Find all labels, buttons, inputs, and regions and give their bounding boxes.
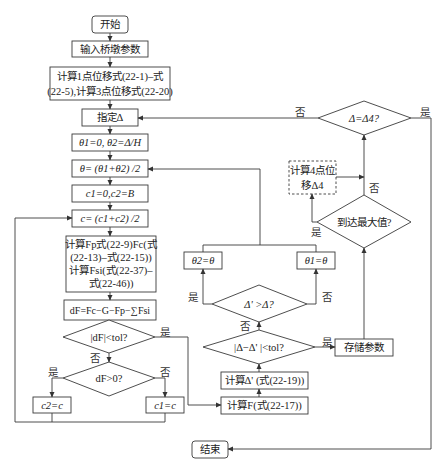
edge-label-delta-gt-no: 否	[322, 289, 332, 304]
start-label: 开始	[92, 16, 128, 33]
calc-delta-prime-label: 计算Δ' (式(22-19))	[221, 372, 308, 389]
calc-F-label: 计算F(式(22-17))	[221, 397, 308, 414]
edge-label-delta4-yes: 是	[420, 104, 430, 119]
edge-label-dF-pos-yes: 是	[48, 364, 58, 379]
theta2-eq-label: θ2=θ	[184, 252, 222, 269]
calc-disp-label-1: 计算1点位移式(22-1)–式	[50, 69, 170, 83]
calc-forces-label-3: 计算Fsi(式(22-37)–	[66, 264, 156, 277]
edge-label-delta4-no: 否	[295, 104, 305, 119]
calc-forces-label-4: 式(22-46))	[66, 277, 156, 290]
calc-forces-label-1: 计算Fp式(22-9)Fc(式	[66, 238, 156, 251]
calc-disp-label-2: (22-5),计算3点位移式(22-20)	[50, 84, 170, 98]
c1-eq-c-label: c1=c	[146, 397, 184, 413]
dF-label: dF=Fc−G−Fp−∑Fsi	[64, 300, 156, 320]
edge-label-reach-max-no: 否	[369, 180, 379, 195]
c2-eq-c-label: c2=c	[33, 397, 71, 413]
assign-delta-label: 指定Δ	[82, 109, 138, 126]
edge-label-delta-tol-no: 否	[240, 318, 250, 333]
edge-label-dF-tol-no: 否	[90, 350, 100, 365]
calc-forces-label-2: (22-13)–式(22-15))	[66, 251, 156, 264]
c-mid-label: c= (c1+c2) /2	[72, 210, 148, 227]
input-params-label: 输入桥墩参数	[72, 41, 148, 57]
edge-label-reach-max-yes: 是	[311, 224, 321, 239]
theta1-eq-label: θ1=θ	[297, 252, 335, 269]
init-theta-label: θ1=0, θ2=Δ/H	[72, 134, 148, 151]
edge-label-delta-tol-yes: 是	[322, 334, 332, 349]
edge-label-dF-pos-no: 否	[160, 364, 170, 379]
edge-label-delta-gt-yes: 是	[188, 289, 198, 304]
calc-disp-4-label-2: 移Δ4	[289, 178, 336, 192]
theta-mid-label: θ= (θ1+θ2) /2	[72, 160, 148, 177]
calc-disp-4-label-1: 计算4点位	[289, 163, 336, 177]
check-dF-pos-label: dF>0?	[73, 371, 145, 385]
edge-label-dF-tol-yes: 是	[160, 324, 170, 339]
init-c-label: c1=0,c2=B	[72, 185, 148, 202]
reach-max-label: 到达最大值?	[327, 215, 401, 229]
check-delta-tol-label: |Δ−Δ' |<tol?	[219, 340, 299, 354]
check-delta4-label: Δ=Δ4?	[334, 111, 394, 125]
check-dF-tol-label: |dF|<tol?	[73, 330, 145, 344]
check-delta-gt-label: Δ' >Δ?	[229, 297, 289, 311]
store-params-label: 存储参数	[335, 339, 393, 356]
end-label: 结束	[192, 441, 228, 458]
